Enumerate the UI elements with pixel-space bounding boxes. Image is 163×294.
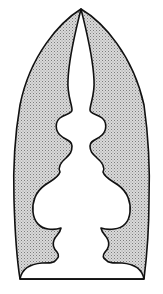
arch-illustration — [0, 0, 163, 294]
